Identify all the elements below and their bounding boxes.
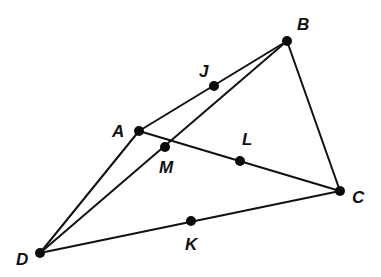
point-label-m: M	[159, 158, 174, 177]
point-d	[35, 248, 45, 258]
point-c	[335, 186, 345, 196]
segment-bc	[287, 41, 340, 191]
labels-group: ABCDJKLM	[16, 15, 365, 269]
point-label-c: C	[352, 188, 365, 207]
point-label-d: D	[16, 250, 28, 269]
point-b	[282, 36, 292, 46]
point-m	[160, 142, 170, 152]
point-label-l: L	[242, 130, 252, 149]
point-a	[134, 126, 144, 136]
point-j	[209, 81, 219, 91]
point-label-k: K	[185, 235, 199, 254]
point-label-a: A	[111, 122, 124, 141]
point-label-b: B	[297, 15, 309, 34]
point-label-j: J	[199, 62, 209, 81]
point-k	[186, 216, 196, 226]
point-l	[235, 156, 245, 166]
diagram-canvas: ABCDJKLM	[0, 0, 381, 277]
geometry-diagram: ABCDJKLM	[0, 0, 381, 277]
